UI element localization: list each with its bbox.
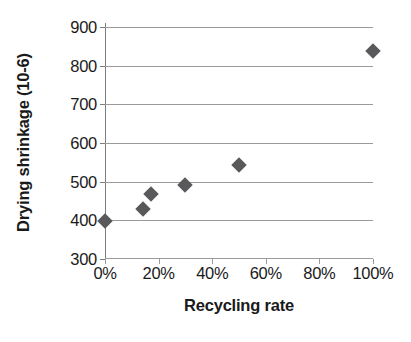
gridline [105,27,373,28]
gridline [105,143,373,144]
y-tick-label: 800 [70,56,97,75]
x-axis-line [105,258,373,259]
y-tick-label: 700 [70,95,97,114]
data-point-marker [143,186,159,202]
x-tick-label: 0% [93,264,116,283]
x-axis-tick-labels: 0%20%40%60%80%100% [0,264,411,290]
scatter-chart: Drying shrinkage (10-6) 9008007006005004… [0,0,411,342]
y-axis-title-text: Drying shrinkage (10-6) [14,53,33,232]
x-tick-label: 80% [303,264,335,283]
y-tick-mark [100,104,105,105]
y-tick-mark [100,66,105,67]
y-axis-tick-labels: 900800700600500400300 [46,0,102,285]
data-point-marker [178,177,194,193]
y-tick-label: 500 [70,172,97,191]
x-tick-label: 60% [250,264,282,283]
y-tick-label: 600 [70,134,97,153]
x-tick-label: 40% [196,264,228,283]
y-axis-title: Drying shrinkage (10-6) [0,0,46,285]
gridline [105,104,373,105]
plot-area [105,27,373,259]
gridline [105,220,373,221]
data-point-marker [365,43,381,59]
y-tick-mark [100,27,105,28]
y-tick-mark [100,182,105,183]
y-tick-label: 400 [70,211,97,230]
data-point-marker [231,157,247,173]
y-tick-mark [100,143,105,144]
y-tick-label: 900 [70,18,97,37]
x-tick-label: 100% [352,264,393,283]
gridline [105,66,373,67]
gridline [105,182,373,183]
x-axis-title: Recycling rate [105,296,373,315]
x-tick-label: 20% [143,264,175,283]
data-point-marker [135,201,151,217]
